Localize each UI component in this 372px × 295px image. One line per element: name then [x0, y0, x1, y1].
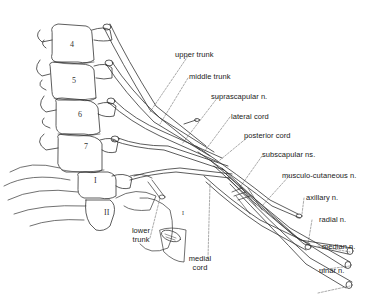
- label-upper-trunk: upper trunk: [175, 50, 214, 59]
- label-musculocutaneous-nerve: musculo-cutaneous n.: [282, 171, 356, 180]
- vertebra-c5-label: 5: [72, 76, 76, 85]
- vertebra-c4-label: 4: [70, 40, 74, 49]
- nerve-roots: [103, 24, 232, 180]
- anatomy-illustration: [0, 0, 372, 295]
- label-subscapular-nerves: subscapular ns.: [262, 150, 315, 159]
- label-posterior-cord: posterior cord: [244, 131, 291, 140]
- vertebra-t2-label: II: [104, 208, 109, 217]
- brachial-plexus-diagram: 4 5 6 7 I II I upper trunk middle trunk …: [0, 0, 372, 295]
- label-middle-trunk: middle trunk: [189, 72, 230, 81]
- rib-label: I: [182, 210, 184, 216]
- label-axillary-nerve: axillary n.: [306, 193, 338, 202]
- label-lateral-cord: lateral cord: [231, 112, 269, 121]
- label-radial-nerve: radial n.: [319, 215, 346, 224]
- label-median-nerve: median n.: [322, 242, 355, 251]
- label-lower-trunk: lower trunk: [128, 226, 154, 244]
- vertebra-c6-label: 6: [78, 110, 82, 119]
- vertebral-column: [36, 24, 132, 231]
- label-suprascapular-nerve: suprascapular n.: [211, 92, 267, 101]
- vertebra-c7-label: 7: [84, 142, 88, 151]
- label-ulnar-nerve: ulnar n.: [319, 266, 344, 275]
- label-medial-cord: medial cord: [186, 254, 214, 272]
- vertebra-t1-label: I: [94, 176, 97, 185]
